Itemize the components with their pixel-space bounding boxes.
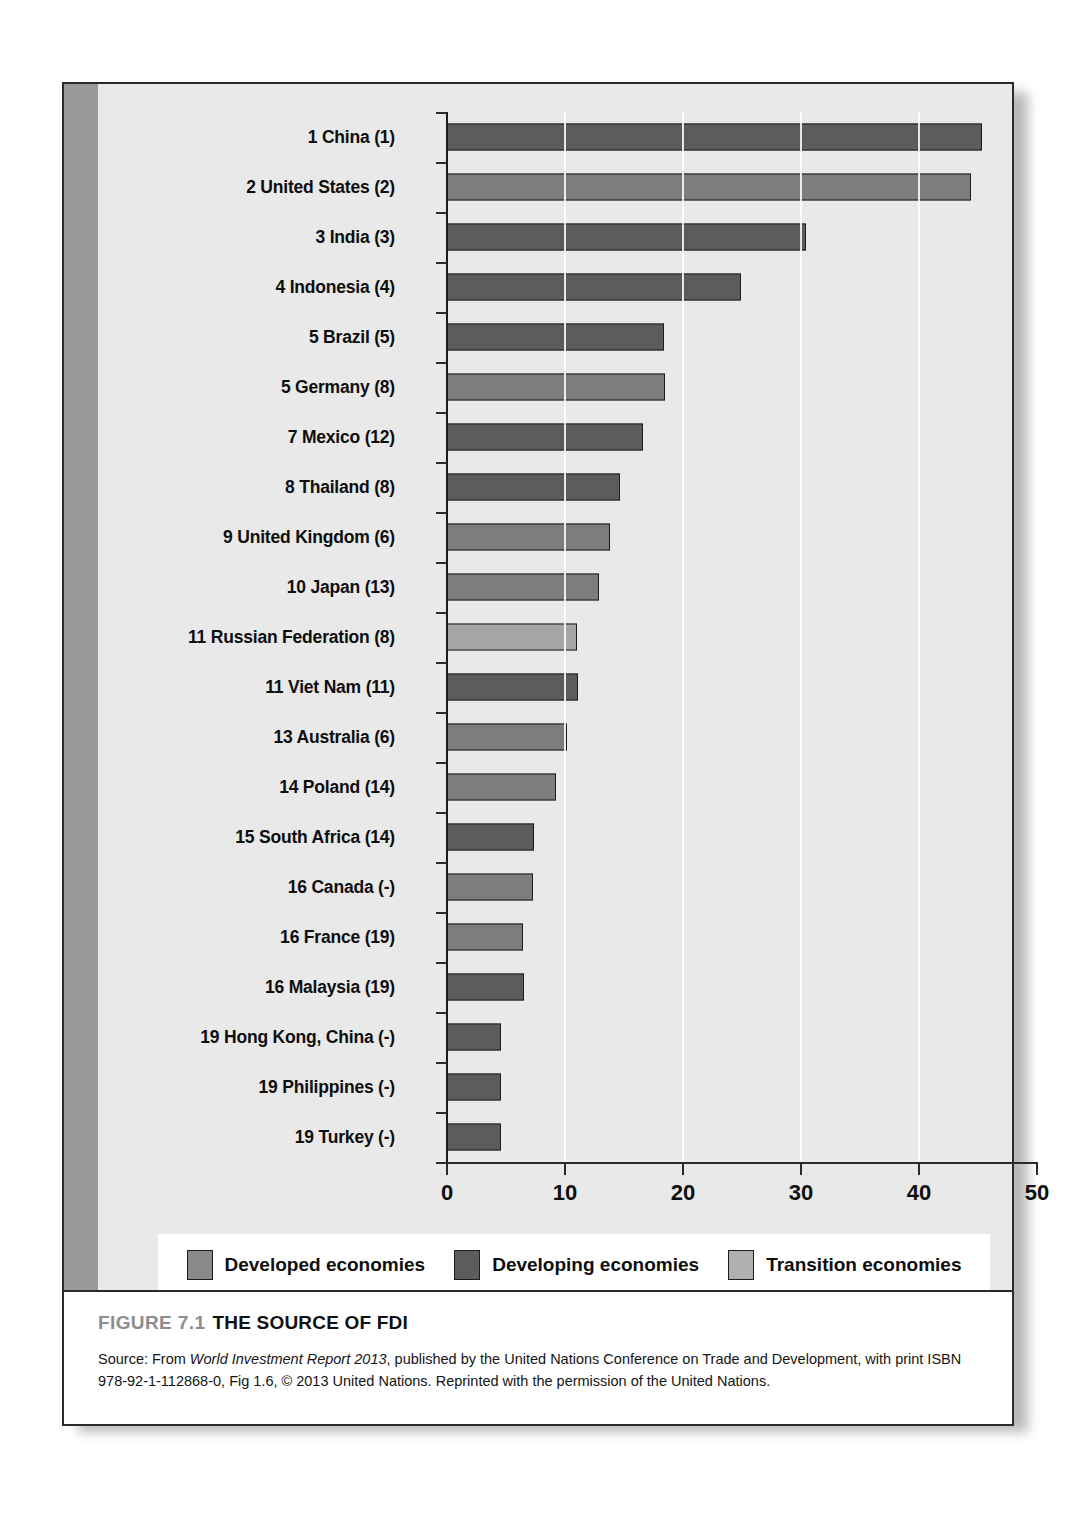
category-tick: [436, 662, 447, 664]
bar: [447, 924, 523, 951]
category-tick: [436, 262, 447, 264]
category-tick: [436, 112, 447, 114]
legend-swatch-developing: [454, 1250, 480, 1280]
bar-track: [447, 962, 1012, 1012]
bar-track: [447, 362, 1012, 412]
chart-row: 19 Hong Kong, China (-): [98, 1012, 1012, 1062]
value-tick: [682, 1164, 684, 1175]
bar: [447, 774, 556, 801]
value-tick-label: 50: [1025, 1180, 1049, 1206]
category-tick: [436, 812, 447, 814]
bar: [447, 124, 982, 151]
category-label: 19 Turkey (-): [98, 1127, 405, 1148]
bar-track: [447, 1112, 1012, 1162]
bar-track: [447, 762, 1012, 812]
figure-page: 1 China (1)2 United States (2)3 India (3…: [0, 0, 1080, 1516]
value-tick: [1036, 1164, 1038, 1175]
category-label: 11 Russian Federation (8): [98, 627, 405, 648]
chart-row: 1 China (1): [98, 112, 1012, 162]
chart-row: 15 South Africa (14): [98, 812, 1012, 862]
category-tick: [436, 312, 447, 314]
bar-track: [447, 262, 1012, 312]
chart-legend: Developed economiesDeveloping economiesT…: [158, 1234, 990, 1296]
bar-track: [447, 212, 1012, 262]
bar-track: [447, 862, 1012, 912]
category-tick: [436, 212, 447, 214]
bar-chart: 1 China (1)2 United States (2)3 India (3…: [98, 84, 1012, 1290]
chart-row: 11 Viet Nam (11): [98, 662, 1012, 712]
category-label: 4 Indonesia (4): [98, 277, 405, 298]
category-tick: [436, 712, 447, 714]
gridline: [682, 112, 684, 1162]
chart-row: 10 Japan (13): [98, 562, 1012, 612]
bar-track: [447, 662, 1012, 712]
value-axis: [446, 1162, 1038, 1164]
category-axis: [446, 112, 448, 1162]
legend-label: Developed economies: [225, 1254, 426, 1276]
category-tick: [436, 562, 447, 564]
bar: [447, 524, 610, 551]
chart-panel: 1 China (1)2 United States (2)3 India (3…: [98, 84, 1012, 1290]
chart-row: 14 Poland (14): [98, 762, 1012, 812]
chart-row: 16 Canada (-): [98, 862, 1012, 912]
chart-row: 19 Turkey (-): [98, 1112, 1012, 1162]
category-tick: [436, 412, 447, 414]
figure-number: FIGURE 7.1: [98, 1312, 205, 1333]
gridline: [918, 112, 920, 1162]
bar: [447, 574, 599, 601]
page-title: THE SOURCE OF FDI: [212, 1312, 408, 1333]
bar: [447, 424, 643, 451]
category-tick: [436, 1062, 447, 1064]
category-tick: [436, 162, 447, 164]
bar-track: [447, 912, 1012, 962]
legend-label: Developing economies: [492, 1254, 699, 1276]
value-tick-label: 30: [789, 1180, 813, 1206]
chart-row: 8 Thailand (8): [98, 462, 1012, 512]
chart-row: 16 Malaysia (19): [98, 962, 1012, 1012]
legend-swatch-transition: [728, 1250, 754, 1280]
category-label: 1 China (1): [98, 127, 405, 148]
bar: [447, 874, 533, 901]
value-tick: [446, 1164, 448, 1175]
legend-item: Developed economies: [187, 1250, 426, 1280]
value-tick-label: 10: [553, 1180, 577, 1206]
category-label: 16 Canada (-): [98, 877, 405, 898]
value-tick: [800, 1164, 802, 1175]
category-label: 16 Malaysia (19): [98, 977, 405, 998]
bar-track: [447, 1062, 1012, 1112]
chart-row: 2 United States (2): [98, 162, 1012, 212]
gridline: [564, 112, 566, 1162]
bar: [447, 624, 577, 651]
bar-track: [447, 1012, 1012, 1062]
bar-track: [447, 612, 1012, 662]
bar: [447, 1124, 501, 1151]
bar: [447, 274, 741, 301]
category-tick: [436, 912, 447, 914]
category-label: 5 Germany (8): [98, 377, 405, 398]
left-gutter-strip: [64, 84, 98, 1290]
value-tick-label: 0: [441, 1180, 453, 1206]
category-label: 11 Viet Nam (11): [98, 677, 405, 698]
category-tick: [436, 462, 447, 464]
value-tick: [564, 1164, 566, 1175]
category-label: 19 Hong Kong, China (-): [98, 1027, 405, 1048]
source-note: Source: From World Investment Report 201…: [98, 1348, 978, 1393]
bar-track: [447, 162, 1012, 212]
category-tick: [436, 962, 447, 964]
legend-label: Transition economies: [766, 1254, 961, 1276]
category-label: 5 Brazil (5): [98, 327, 405, 348]
chart-row: 3 India (3): [98, 212, 1012, 262]
chart-row: 13 Australia (6): [98, 712, 1012, 762]
value-tick: [918, 1164, 920, 1175]
bar: [447, 224, 806, 251]
source-prefix: Source: From: [98, 1351, 190, 1367]
bar-track: [447, 412, 1012, 462]
bar-track: [447, 512, 1012, 562]
category-label: 7 Mexico (12): [98, 427, 405, 448]
category-tick: [436, 862, 447, 864]
category-label: 9 United Kingdom (6): [98, 527, 405, 548]
bar: [447, 324, 664, 351]
category-label: 14 Poland (14): [98, 777, 405, 798]
category-label: 10 Japan (13): [98, 577, 405, 598]
gridline: [1036, 112, 1038, 1162]
